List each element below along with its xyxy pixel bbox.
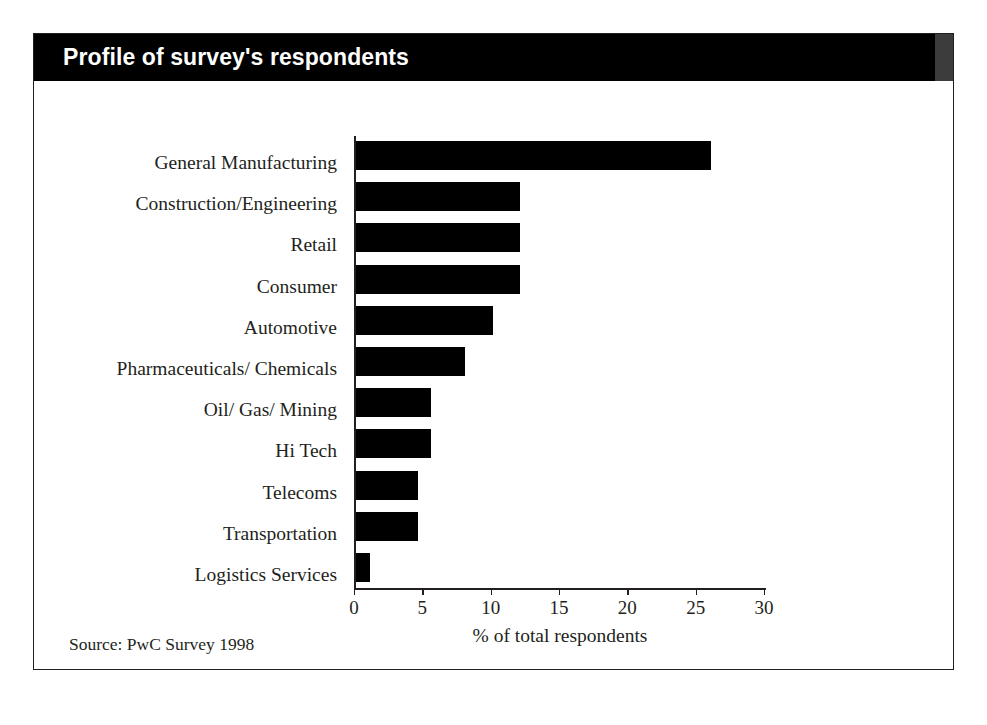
bar xyxy=(356,306,493,335)
category-label: Hi Tech xyxy=(275,441,337,461)
bar xyxy=(356,471,418,500)
category-label: Retail xyxy=(290,235,337,255)
x-axis-tick-label: 30 xyxy=(744,597,784,619)
category-label: Automotive xyxy=(244,318,337,338)
x-axis-tick-label: 25 xyxy=(676,597,716,619)
bar xyxy=(356,388,431,417)
chart-title-banner: Profile of survey's respondents xyxy=(34,34,953,81)
figure-page: Profile of survey's respondents General … xyxy=(0,0,987,725)
x-axis-tick-label: 15 xyxy=(539,597,579,619)
x-axis-tick-label: 5 xyxy=(402,597,442,619)
x-axis-tick xyxy=(491,588,492,595)
bar xyxy=(356,429,431,458)
category-label: Pharmaceuticals/ Chemicals xyxy=(117,359,337,379)
x-axis-title: % of total respondents xyxy=(354,625,766,647)
bar xyxy=(356,223,520,252)
chart-area: General ManufacturingConstruction/Engine… xyxy=(34,81,953,669)
category-label: Transportation xyxy=(223,524,337,544)
bar xyxy=(356,182,520,211)
category-label: Oil/ Gas/ Mining xyxy=(204,400,337,420)
bar xyxy=(356,512,418,541)
figure-container: Profile of survey's respondents General … xyxy=(33,33,954,670)
x-axis-tick-label: 10 xyxy=(471,597,511,619)
banner-streak xyxy=(935,34,953,81)
category-label: Telecoms xyxy=(263,483,337,503)
x-axis-tick xyxy=(354,588,355,595)
category-axis-labels: General ManufacturingConstruction/Engine… xyxy=(34,143,347,583)
plot-region: % of total respondents 051015202530 xyxy=(354,136,794,591)
bar xyxy=(356,553,370,582)
category-label: Logistics Services xyxy=(195,565,337,585)
x-axis-tick-label: 0 xyxy=(334,597,374,619)
x-axis-tick-label: 20 xyxy=(607,597,647,619)
x-axis-tick xyxy=(422,588,423,595)
source-note: Source: PwC Survey 1998 xyxy=(69,634,254,655)
x-axis-tick xyxy=(559,588,560,595)
category-label: General Manufacturing xyxy=(155,153,337,173)
bar xyxy=(356,347,465,376)
x-axis-tick xyxy=(627,588,628,595)
x-axis-tick xyxy=(764,588,765,595)
page-title: Profile of survey's respondents xyxy=(63,44,409,71)
bar xyxy=(356,141,711,170)
bar xyxy=(356,265,520,294)
category-label: Construction/Engineering xyxy=(136,194,337,214)
x-axis-tick xyxy=(696,588,697,595)
category-label: Consumer xyxy=(257,277,337,297)
